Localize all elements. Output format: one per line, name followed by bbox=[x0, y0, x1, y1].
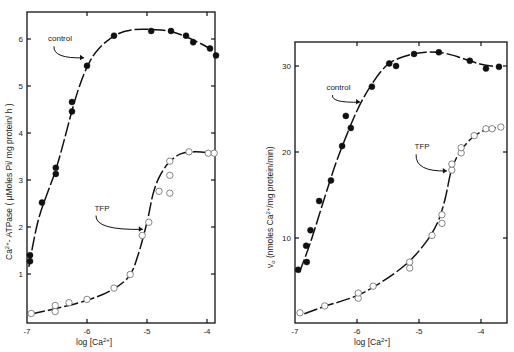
tfp-data-point bbox=[167, 158, 173, 164]
arrowhead-icon bbox=[443, 168, 447, 174]
control-data-point bbox=[436, 49, 442, 55]
tfp-data-point bbox=[439, 220, 445, 226]
arrow-icon bbox=[54, 46, 84, 58]
tfp-data-point bbox=[355, 290, 361, 296]
tfp-data-point bbox=[407, 265, 413, 271]
right-annotations: controlTFP bbox=[326, 83, 447, 173]
right-y-axis-label: vo (nmoles Ca2+/mg protein/min) bbox=[265, 146, 276, 268]
tfp-data-point bbox=[139, 232, 145, 238]
x-tick-label: -4 bbox=[203, 327, 211, 336]
control-annotation: control bbox=[48, 34, 72, 43]
tfp-data-point bbox=[84, 296, 90, 302]
control-data-point bbox=[308, 227, 314, 233]
tfp-data-point bbox=[52, 302, 58, 308]
right-ticks: -7-6-5-4102030 bbox=[282, 42, 507, 336]
tfp-data-point bbox=[66, 299, 72, 305]
tfp-data-point bbox=[471, 132, 477, 138]
control-data-point bbox=[27, 258, 33, 264]
y-tick-label: 2 bbox=[19, 223, 24, 232]
tfp-data-point bbox=[28, 310, 34, 316]
tfp-data-point bbox=[449, 167, 455, 173]
arrowhead-icon bbox=[356, 99, 360, 105]
control-data-point bbox=[69, 108, 75, 114]
tfp-data-point bbox=[111, 285, 117, 291]
control-data-point bbox=[496, 64, 502, 70]
y-tick-label: 6 bbox=[19, 35, 24, 44]
arrow-icon bbox=[96, 216, 143, 230]
x-tick-label: -5 bbox=[143, 327, 151, 336]
right-x-axis-label: log [Ca2+] bbox=[354, 337, 390, 347]
control-data-point bbox=[69, 99, 75, 105]
y-tick-label: 10 bbox=[282, 234, 291, 243]
control-data-point bbox=[111, 33, 117, 39]
tfp-data-point bbox=[205, 150, 211, 156]
control-data-point bbox=[343, 113, 349, 119]
left-chart: -7-6-5-4123456 controlTFP Ca2+- ATPase (… bbox=[4, 12, 219, 347]
x-tick-label: -7 bbox=[23, 327, 31, 336]
left-x-axis-label: log [Ca2+] bbox=[76, 337, 112, 347]
control-data-point bbox=[39, 200, 45, 206]
control-data-point bbox=[316, 198, 322, 204]
control-data-point bbox=[369, 84, 375, 90]
control-data-point bbox=[53, 165, 59, 171]
control-data-point bbox=[295, 267, 301, 273]
y-tick-label: 5 bbox=[19, 82, 24, 91]
control-data-point bbox=[386, 60, 392, 66]
control-annotation: control bbox=[326, 83, 350, 92]
tfp-curve bbox=[304, 127, 501, 314]
tfp-annotation: TFP bbox=[94, 204, 109, 213]
tfp-data-point bbox=[489, 126, 495, 132]
control-data-point bbox=[339, 143, 345, 149]
y-tick-label: 20 bbox=[282, 148, 291, 157]
tfp-annotation: TFP bbox=[415, 142, 430, 151]
control-data-point bbox=[84, 63, 90, 69]
right-chart: -7-6-5-4102030 controlTFP vo (nmoles Ca2… bbox=[265, 42, 507, 347]
control-curve bbox=[29, 29, 216, 267]
tfp-data-point bbox=[429, 232, 435, 238]
tfp-data-point bbox=[146, 219, 152, 225]
y-tick-label: 3 bbox=[19, 176, 24, 185]
y-tick-label: 30 bbox=[282, 62, 291, 71]
tfp-data-point bbox=[439, 212, 445, 218]
control-data-point bbox=[467, 58, 473, 64]
control-data-point bbox=[483, 66, 489, 72]
tfp-data-point bbox=[186, 149, 192, 155]
y-tick-label: 4 bbox=[19, 129, 24, 138]
y-tick-label: 1 bbox=[19, 270, 24, 279]
tfp-data-point bbox=[407, 259, 413, 265]
control-data-point bbox=[303, 243, 309, 249]
left-data-points bbox=[27, 28, 219, 317]
arrow-icon bbox=[332, 95, 360, 102]
x-tick-label: -4 bbox=[477, 327, 485, 336]
figure: -7-6-5-4123456 controlTFP Ca2+- ATPase (… bbox=[0, 0, 514, 352]
control-data-point bbox=[348, 125, 354, 131]
x-tick-label: -5 bbox=[415, 327, 423, 336]
tfp-data-point bbox=[449, 161, 455, 167]
arrowhead-icon bbox=[139, 226, 143, 232]
control-data-point bbox=[213, 52, 219, 58]
left-y-axis-label: Ca2+- ATPase ( µMoles Pi/ mg protein/ h … bbox=[4, 103, 14, 260]
control-data-point bbox=[53, 171, 59, 177]
tfp-data-point bbox=[370, 283, 376, 289]
arrow-icon bbox=[416, 154, 447, 171]
control-data-point bbox=[393, 63, 399, 69]
tfp-data-point bbox=[127, 271, 133, 277]
tfp-data-point bbox=[322, 303, 328, 309]
control-data-point bbox=[183, 33, 189, 39]
control-data-point bbox=[190, 39, 196, 45]
x-tick-label: -6 bbox=[353, 327, 361, 336]
x-tick-label: -6 bbox=[83, 327, 91, 336]
tfp-data-point bbox=[483, 126, 489, 132]
control-data-point bbox=[411, 51, 417, 57]
control-data-point bbox=[207, 45, 213, 51]
tfp-data-point bbox=[156, 188, 162, 194]
control-data-point bbox=[27, 252, 33, 258]
tfp-data-point bbox=[167, 172, 173, 178]
control-data-point bbox=[304, 259, 310, 265]
tfp-data-point bbox=[211, 150, 217, 156]
left-annotations: controlTFP bbox=[48, 34, 143, 232]
tfp-data-point bbox=[458, 145, 464, 151]
control-data-point bbox=[148, 28, 154, 34]
arrowhead-icon bbox=[80, 55, 84, 61]
control-data-point bbox=[328, 177, 334, 183]
